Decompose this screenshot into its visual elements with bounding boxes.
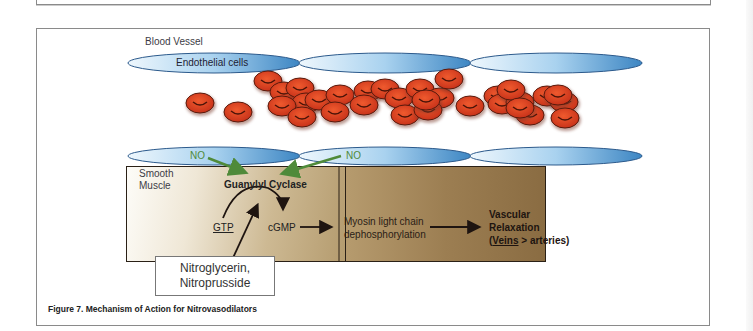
smooth-muscle-line1: Smooth — [139, 168, 173, 180]
figure-caption: Figure 7. Mechanism of Action for Nitrov… — [48, 304, 257, 314]
outcome-line1: Vascular — [489, 208, 569, 221]
drug-box: Nitroglycerin, Nitroprusside — [155, 256, 275, 296]
smooth-muscle-label: Smooth Muscle — [139, 168, 173, 192]
cgmp-label: cGMP — [268, 222, 296, 233]
veins-text: Veins — [492, 235, 518, 246]
myosin-step-label: Myosin light chain dephosphorylation — [344, 215, 426, 241]
myosin-line2: dephosphorylation — [344, 228, 426, 241]
guanylyl-cyclase-label: Guanylyl Cyclase — [224, 179, 307, 190]
red-blood-cells — [186, 69, 581, 131]
endothelial-cells-label: Endothelial cells — [176, 57, 248, 68]
smooth-muscle-line2: Muscle — [139, 180, 173, 192]
no-label-right: NO — [346, 150, 361, 161]
drug-line1: Nitroglycerin, — [156, 261, 274, 276]
endothelial-cells-bottom — [128, 147, 642, 165]
gtp-label: GTP — [213, 222, 234, 233]
outcome-line2: Relaxation — [489, 221, 569, 234]
myosin-line1: Myosin light chain — [344, 215, 426, 228]
no-label-left: NO — [190, 150, 205, 161]
blood-vessel-label: Blood Vessel — [145, 36, 203, 47]
vascular-relaxation-label: Vascular Relaxation (Veins > arteries) — [489, 208, 569, 247]
diagram-graphics — [0, 0, 753, 331]
arteries-text: > arteries) — [518, 235, 569, 246]
outcome-line3: (Veins > arteries) — [489, 234, 569, 247]
drug-line2: Nitroprusside — [156, 276, 274, 291]
